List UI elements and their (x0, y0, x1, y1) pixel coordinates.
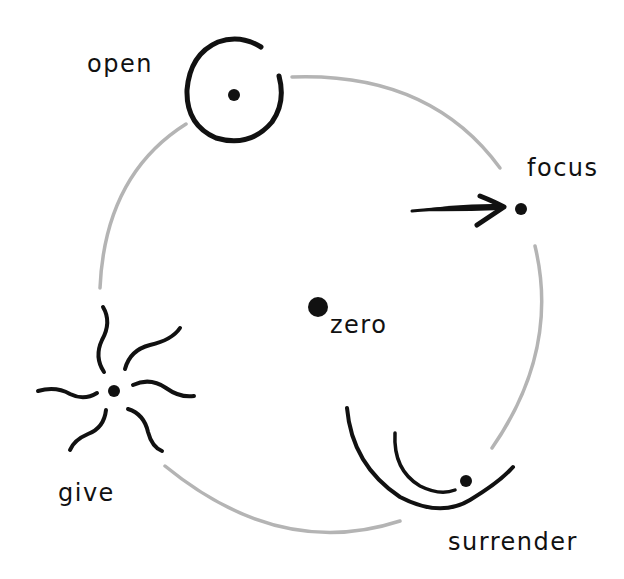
give-dot-icon (108, 385, 120, 397)
center-label-zero: zero (330, 311, 387, 339)
node-label-give: give (58, 479, 115, 507)
node-label-surrender: surrender (448, 528, 578, 556)
node-label-focus: focus (527, 154, 599, 182)
node-focus: focus (412, 154, 599, 225)
node-label-open: open (87, 50, 153, 78)
node-zero: zero (308, 297, 387, 339)
node-surrender: surrender (347, 408, 578, 556)
arrow-right-icon (412, 196, 504, 225)
radiating-lines-icon (38, 307, 194, 451)
center-dot-icon (308, 297, 328, 317)
focus-dot-icon (515, 203, 527, 215)
surrender-dot-icon (460, 475, 472, 487)
open-circle-icon (187, 39, 281, 141)
cycle-diagram: open focus zero surrender (0, 0, 624, 579)
bowl-curves-icon (347, 408, 513, 508)
node-give: give (38, 307, 194, 507)
